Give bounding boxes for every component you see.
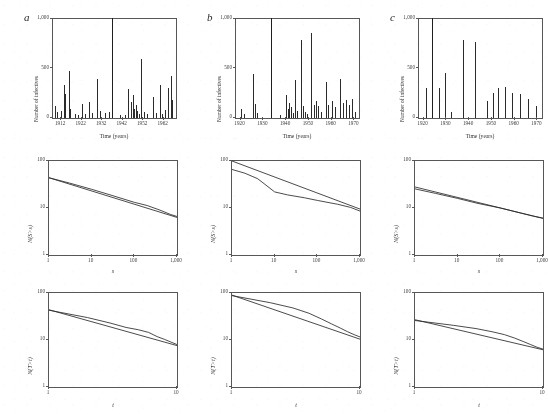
panel-c-timeseries: c Number of infectives Time (years) 0500… xyxy=(366,0,548,148)
xtick-label: 100 xyxy=(495,258,503,263)
ytick-mark xyxy=(50,18,53,19)
ytick-mark xyxy=(233,67,236,68)
spike-bar xyxy=(156,113,157,118)
spike-bar xyxy=(109,112,110,118)
spike-bar xyxy=(244,114,245,118)
spike-bar xyxy=(328,105,329,118)
power-law-fit-line xyxy=(232,295,360,339)
xtick-label: 1 xyxy=(47,258,50,263)
panel-letter-c: c xyxy=(390,11,395,23)
xtick-label: 1932 xyxy=(96,121,106,126)
xtick-label: 1960 xyxy=(508,121,518,126)
duration-dist-c-xlabel: t xyxy=(478,402,480,408)
spike-bar xyxy=(82,104,83,118)
ytick-label: 1 xyxy=(213,383,228,388)
spike-bar xyxy=(112,18,113,118)
spike-bar xyxy=(78,115,79,118)
spike-bar xyxy=(335,107,336,118)
ytick-mark xyxy=(229,160,232,161)
power-law-fit-line xyxy=(49,178,177,218)
ytick-label: 100 xyxy=(30,289,45,294)
ytick-label: 500 xyxy=(219,65,232,70)
ytick-label: 500 xyxy=(36,65,49,70)
timeseries-plot-a xyxy=(52,18,177,119)
ytick-label: 1,000 xyxy=(402,15,415,20)
spike-bar xyxy=(463,40,464,118)
size-dist-plot-b xyxy=(231,160,361,256)
xtick-label: 1960 xyxy=(325,121,335,126)
spike-bar xyxy=(528,99,529,118)
xtick-label: 10 xyxy=(356,390,361,395)
ytick-mark xyxy=(46,207,49,208)
panel-b-duration-distribution: N(T>t) t 110100110 xyxy=(183,278,366,414)
ytick-mark xyxy=(50,117,53,118)
spike-bar xyxy=(139,114,140,118)
spike-bar xyxy=(439,88,440,118)
xtick-label: 1,000 xyxy=(536,258,548,263)
spike-bar xyxy=(487,101,488,118)
xtick-label: 10 xyxy=(454,258,459,263)
ytick-mark xyxy=(50,67,53,68)
panel-c-size-distribution: N(S>s) s 1101001101001,000 xyxy=(366,148,548,278)
xtick-label: 1 xyxy=(413,258,416,263)
ytick-mark xyxy=(416,67,419,68)
spike-bar xyxy=(346,100,347,118)
xtick-label: 100 xyxy=(129,258,137,263)
spike-bar xyxy=(160,85,161,118)
size-dist-plot-a xyxy=(48,160,178,256)
xtick-label: 1 xyxy=(413,390,416,395)
spike-bar xyxy=(352,99,353,118)
spike-bar xyxy=(92,113,93,118)
spike-bar xyxy=(297,111,298,118)
spike-series-c xyxy=(419,19,542,118)
spike-bar xyxy=(314,105,315,118)
panel-a-timeseries: a Number of infectives Time (years) 0500… xyxy=(0,0,183,148)
loglog-curves xyxy=(49,293,177,387)
duration-dist-curves-a xyxy=(49,293,177,387)
loglog-curves xyxy=(232,161,360,255)
spike-bar xyxy=(445,73,446,118)
ytick-label: 500 xyxy=(402,65,415,70)
loglog-curves xyxy=(415,161,543,255)
spike-bar xyxy=(97,79,98,118)
xtick-label: 1940 xyxy=(280,121,290,126)
ytick-label: 1 xyxy=(396,251,411,256)
xtick-label: 1940 xyxy=(463,121,473,126)
spike-bar xyxy=(120,115,121,118)
spike-bar xyxy=(311,33,312,118)
spike-bar xyxy=(475,42,476,118)
duration-dist-a-xlabel: t xyxy=(112,402,114,408)
xtick-label: 1962 xyxy=(158,121,168,126)
spike-series-a xyxy=(53,19,176,118)
panel-b-size-distribution: N(S>s) s 1101001101001,000 xyxy=(183,148,366,278)
spike-bar xyxy=(75,114,76,118)
duration-dist-plot-c xyxy=(414,292,544,388)
xtick-label: 1970 xyxy=(531,121,541,126)
ytick-mark xyxy=(46,339,49,340)
ytick-mark xyxy=(416,18,419,19)
xtick-label: 1952 xyxy=(137,121,147,126)
spike-bar xyxy=(303,106,304,118)
spike-bar xyxy=(498,88,499,118)
duration-dist-plot-b xyxy=(231,292,361,388)
ytick-mark xyxy=(412,339,415,340)
spike-bar xyxy=(253,74,254,118)
xtick-label: 1942 xyxy=(117,121,127,126)
ytick-mark xyxy=(229,292,232,293)
power-law-fit-line xyxy=(415,320,543,350)
xtick-label: 10 xyxy=(539,390,544,395)
size-dist-plot-c xyxy=(414,160,544,256)
spike-bar xyxy=(318,106,319,118)
size-dist-curves-b xyxy=(232,161,360,255)
spike-bar xyxy=(316,101,317,118)
spike-bar xyxy=(257,113,258,118)
ytick-label: 1,000 xyxy=(36,15,49,20)
ytick-mark xyxy=(412,292,415,293)
timeseries-c-xlabel: Time (years) xyxy=(466,133,495,139)
spike-bar xyxy=(144,112,145,118)
ytick-label: 10 xyxy=(396,336,411,341)
power-law-fit-line xyxy=(49,310,177,346)
xtick-label: 1912 xyxy=(55,121,65,126)
ytick-mark xyxy=(233,18,236,19)
size-dist-c-xlabel: s xyxy=(478,268,480,274)
